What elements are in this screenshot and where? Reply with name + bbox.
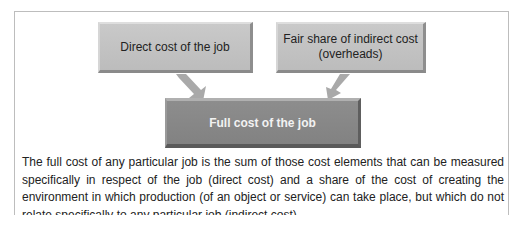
arrow-direct-to-full xyxy=(176,74,206,101)
full-cost-box: Full cost of the job xyxy=(165,98,361,148)
indirect-cost-label-line1: Fair share of indirect cost xyxy=(283,32,418,46)
indirect-cost-label-line2: (overheads) xyxy=(318,47,382,61)
indirect-cost-label: Fair share of indirect cost (overheads) xyxy=(283,32,418,62)
direct-cost-box: Direct cost of the job xyxy=(98,22,253,73)
direct-cost-label: Direct cost of the job xyxy=(120,40,229,55)
full-cost-label: Full cost of the job xyxy=(209,116,316,130)
arrow-indirect-to-full xyxy=(326,74,350,100)
caption-text: The full cost of any particular job is t… xyxy=(22,154,504,215)
indirect-cost-box: Fair share of indirect cost (overheads) xyxy=(276,22,426,73)
